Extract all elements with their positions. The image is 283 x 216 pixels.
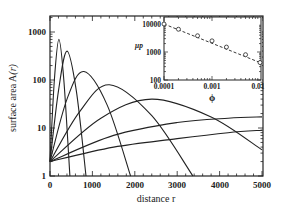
- x-tick-0: 0: [48, 180, 53, 190]
- x-tick-2000: 2000: [126, 180, 145, 190]
- inset-x-tick-0.01: 0.01: [251, 82, 264, 91]
- y-tick-1: 1: [42, 171, 47, 181]
- inset-y-tick-10000: 10000: [142, 20, 161, 29]
- inset-x-tick-0.0001: 0.0001: [154, 82, 175, 91]
- y-tick-100: 100: [33, 75, 47, 85]
- x-axis-title: distance r: [137, 193, 176, 204]
- x-tick-3000: 3000: [168, 180, 187, 190]
- inset-point: [244, 53, 248, 57]
- inset-y-tick-1000: 1000: [146, 48, 161, 57]
- x-tick-1000: 1000: [83, 180, 102, 190]
- x-tick-4000: 4000: [211, 180, 230, 190]
- inset-point: [210, 39, 214, 43]
- inset-background: [164, 17, 262, 81]
- x-tick-5000: 5000: [253, 180, 272, 190]
- inset-point: [224, 45, 228, 49]
- inset-point: [162, 22, 166, 26]
- chart: 1000 100 10 1 0 1000 2000 3000 4000 5000…: [0, 0, 283, 216]
- inset-point: [196, 34, 200, 38]
- inset-x-axis-title: ϕ: [209, 92, 215, 103]
- inset-point: [176, 27, 180, 31]
- inset-point: [258, 61, 262, 65]
- y-tick-10: 10: [37, 123, 47, 133]
- curve-4: [50, 85, 193, 176]
- inset-x-tick-0.001: 0.001: [204, 82, 221, 91]
- inset-y-axis-title: μp: [134, 41, 143, 50]
- y-axis-title: surface area A(r): [7, 63, 19, 131]
- y-tick-1000: 1000: [28, 27, 47, 37]
